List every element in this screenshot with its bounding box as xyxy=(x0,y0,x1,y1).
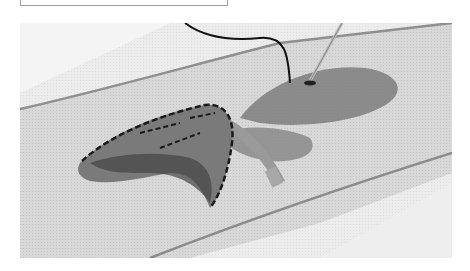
caption-box xyxy=(20,0,228,6)
embroidery-photo xyxy=(20,23,452,258)
butterfly-embroidery-image xyxy=(20,23,452,258)
